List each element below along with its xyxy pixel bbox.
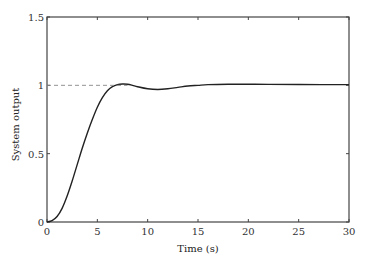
x-tick-label: 15 (192, 226, 205, 237)
x-tick-label: 10 (141, 226, 154, 237)
y-tick-label: 0 (38, 217, 44, 228)
x-axis-label: Time (s) (177, 243, 218, 254)
x-tick-label: 30 (343, 226, 356, 237)
x-tick-label: 0 (44, 226, 50, 237)
x-tick-label: 25 (292, 226, 305, 237)
response-curve (47, 84, 349, 222)
x-tick-label: 20 (242, 226, 255, 237)
y-axis-label: System output (10, 88, 21, 162)
y-tick-label: 1.5 (28, 12, 44, 23)
step-response-chart: 05101520253000.511.5Time (s)System outpu… (0, 0, 371, 262)
y-tick-label: 1 (38, 80, 44, 91)
y-tick-label: 0.5 (28, 149, 44, 160)
x-tick-label: 5 (94, 226, 100, 237)
